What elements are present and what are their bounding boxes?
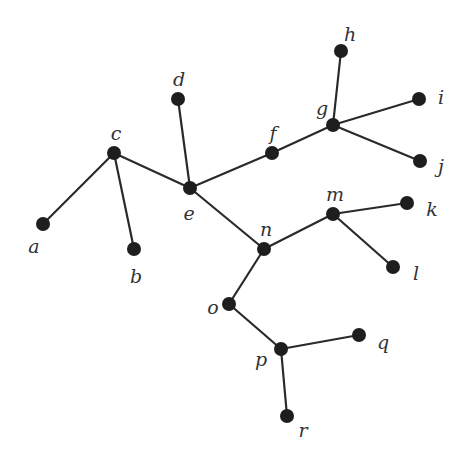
edge-d-e [178,99,190,188]
node-d [171,92,185,106]
node-k [400,196,414,210]
node-b [127,242,141,256]
edge-p-r [281,349,287,416]
node-label-a: a [28,235,39,257]
node-j [413,154,427,168]
node-label-o: o [207,296,218,318]
node-l [386,260,400,274]
edge-e-n [190,188,264,249]
node-i [412,92,426,106]
node-q [352,328,366,342]
node-label-b: b [130,265,142,287]
edge-n-m [264,214,333,249]
edge-g-h [333,51,341,125]
node-m [326,207,340,221]
node-e [183,181,197,195]
edge-m-l [333,214,393,267]
node-a [36,217,50,231]
node-r [280,409,294,423]
edge-m-k [333,203,407,214]
node-label-l: l [413,262,419,284]
edge-c-a [43,153,114,224]
node-c [107,146,121,160]
node-label-d: d [173,68,185,90]
edge-c-e [114,153,190,188]
node-o [222,297,236,311]
edge-f-g [272,125,333,153]
node-label-h: h [344,23,356,45]
edge-n-o [229,249,264,304]
edge-g-j [333,125,420,161]
node-label-f: f [267,122,279,144]
node-label-m: m [326,183,344,205]
node-p [274,342,288,356]
node-g [326,118,340,132]
edge-p-q [281,335,359,349]
edges-group [43,51,420,416]
node-label-c: c [111,122,122,144]
node-f [265,146,279,160]
labels-group: abcdefghijklmnopqr [28,23,444,441]
node-h [334,44,348,58]
node-label-e: e [183,202,194,224]
tree-diagram: abcdefghijklmnopqr [0,0,466,469]
node-label-k: k [426,198,438,220]
node-label-p: p [255,348,267,370]
node-label-r: r [298,419,309,441]
edge-e-f [190,153,272,188]
node-label-j: j [434,155,444,177]
node-label-i: i [438,86,444,108]
node-label-g: g [316,97,328,119]
node-label-n: n [260,218,272,240]
edge-o-p [229,304,281,349]
edge-c-b [114,153,134,249]
edge-g-i [333,99,419,125]
node-n [257,242,271,256]
nodes-group [36,44,427,423]
node-label-q: q [377,331,389,353]
